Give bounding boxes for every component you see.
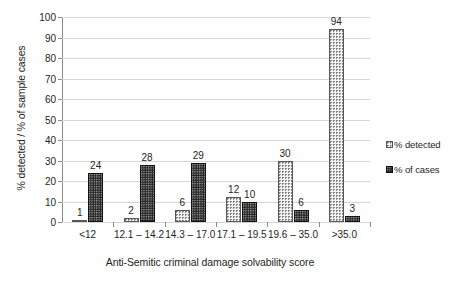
gridline [62,58,370,59]
y-axis-tick-label: 60 [30,94,56,105]
bar-detected[interactable] [175,210,190,222]
y-axis-title: % detected / % of sample cases [15,13,27,223]
bar-value-label: 24 [80,160,111,171]
bar-value-label: 94 [321,16,352,27]
y-axis-tick-mark [58,79,62,80]
y-axis-tick-label: 0 [30,217,56,228]
x-axis-tick-mark [113,222,114,227]
gridline [62,140,370,141]
y-axis-tick-label: 70 [30,73,56,84]
x-axis-tick-mark [319,222,320,227]
y-axis-tick-label: 100 [30,12,56,23]
x-axis-tick-mark [165,222,166,227]
y-axis-tick-label: 50 [30,114,56,125]
bar-cases[interactable] [294,210,309,222]
plot-area [62,17,370,222]
bar-value-label: 6 [286,197,317,208]
x-axis-category-label: <12 [62,229,113,240]
bar-value-label: 30 [270,148,301,159]
legend-label-cases: % of cases [394,164,439,175]
y-axis-tick-labels: 0102030405060708090100 [28,17,56,222]
bar-detected[interactable] [226,197,241,222]
bar-value-label: 29 [183,150,214,161]
y-axis-tick-mark [58,38,62,39]
x-axis-tick-mark [216,222,217,227]
legend-label-detected: % detected [394,139,441,150]
legend-swatch-cases-icon [386,166,393,173]
y-axis-tick-label: 20 [30,176,56,187]
y-axis-tick-mark [58,181,62,182]
bar-value-label: 10 [234,189,265,200]
x-axis-category-label: 14.3 – 17.0 [165,229,216,240]
bar-value-label: 1 [64,207,95,218]
gridline [62,181,370,182]
bar-cases[interactable] [242,202,257,223]
bar-value-label: 28 [132,152,163,163]
y-axis-tick-mark [58,202,62,203]
gridline [62,99,370,100]
y-axis-tick-mark [58,58,62,59]
bar-detected[interactable] [124,218,139,222]
chart-legend: % detected % of cases [386,138,456,188]
y-axis-tick-mark [58,120,62,121]
x-axis-category-label: 17.1 – 19.5 [216,229,267,240]
bar-detected[interactable] [329,29,344,222]
y-axis-tick-label: 30 [30,155,56,166]
x-axis-tick-mark [267,222,268,227]
gridline [62,38,370,39]
bar-cases[interactable] [345,216,360,222]
bar-detected[interactable] [72,220,87,222]
y-axis-tick-label: 80 [30,53,56,64]
bar-value-label: 6 [167,197,198,208]
legend-item-cases[interactable]: % of cases [386,163,456,175]
legend-swatch-detected-icon [386,141,393,148]
gridline [62,202,370,203]
gridline [62,120,370,121]
y-axis-tick-label: 90 [30,32,56,43]
bar-value-label: 3 [337,203,368,214]
bar-cases[interactable] [191,163,206,222]
x-axis-category-label: 12.1 – 14.2 [113,229,164,240]
x-axis-title: Anti-Semitic criminal damage solvability… [40,256,380,268]
legend-item-detected[interactable]: % detected [386,138,456,150]
y-axis-tick-mark [58,17,62,18]
x-axis-tick-mark [370,222,371,227]
y-axis-tick-mark [58,161,62,162]
gridline [62,79,370,80]
y-axis-tick-label: 40 [30,135,56,146]
bar-detected[interactable] [278,161,293,223]
y-axis-tick-mark [58,222,62,223]
y-axis-tick-mark [58,99,62,100]
x-axis-category-label: 19.6 – 35.0 [267,229,318,240]
bar-value-label: 2 [116,205,147,216]
x-axis-category-label: >35.0 [319,229,370,240]
y-axis-tick-label: 10 [30,196,56,207]
bar-chart: % detected / % of sample cases 010203040… [0,0,456,283]
y-axis-tick-mark [58,140,62,141]
